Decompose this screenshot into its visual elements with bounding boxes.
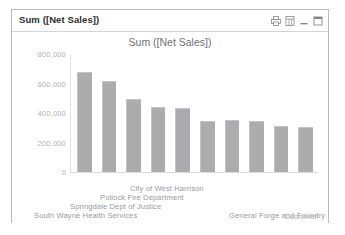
x-axis-category-label: Pollock Fire Department — [100, 193, 184, 202]
x-axis-tick-mark — [183, 172, 184, 174]
print-icon[interactable] — [271, 16, 281, 26]
bar[interactable] — [77, 72, 92, 172]
x-axis-tick-mark — [84, 172, 85, 174]
bar[interactable] — [200, 121, 215, 172]
x-axis-category-label: South Wayne Health Services — [34, 211, 137, 220]
minimize-icon[interactable] — [299, 16, 309, 26]
maximize-icon[interactable] — [313, 16, 323, 26]
x-axis-category-label: Springdale Dept of Justice — [70, 202, 161, 211]
bar[interactable] — [249, 121, 264, 172]
chart-title: Sum ([Net Sales]) — [12, 36, 328, 48]
bar[interactable] — [126, 99, 141, 172]
x-axis-tick-mark — [207, 172, 208, 174]
x-axis-tick-mark — [134, 172, 135, 174]
bar[interactable] — [225, 120, 240, 172]
x-axis-category-label: City of West Harrison — [130, 184, 204, 193]
plot-area: 0200,000400,000600,000800,000 — [12, 54, 328, 184]
bar[interactable] — [175, 108, 190, 172]
window-title: Sum ([Net Sales]) — [19, 14, 99, 25]
bar[interactable] — [274, 126, 289, 172]
y-axis-tick-label: 600,000 — [37, 79, 66, 88]
x-axis-tick-mark — [158, 172, 159, 174]
bar[interactable] — [102, 81, 117, 172]
window-caption-buttons — [271, 14, 323, 27]
x-axis-title: Customer — [284, 212, 317, 221]
x-axis-tick-mark — [109, 172, 110, 174]
x-axis-tick-mark — [257, 172, 258, 174]
x-axis-tick-mark — [281, 172, 282, 174]
x-axis-tick-mark — [306, 172, 307, 174]
bar-series — [72, 54, 318, 172]
y-axis-tick-label: 200,000 — [37, 138, 66, 147]
bar[interactable] — [151, 107, 166, 172]
chart-window: Sum ([Net Sales]) — [11, 9, 329, 223]
chart-canvas[interactable]: Sum ([Net Sales]) 0200,000400,000600,000… — [12, 32, 328, 223]
y-axis: 0200,000400,000600,000800,000 — [12, 54, 70, 172]
export-to-excel-icon[interactable] — [285, 16, 295, 26]
x-axis-labels: City of West HarrisonPollock Fire Depart… — [12, 184, 328, 223]
y-axis-line — [70, 54, 71, 172]
x-axis-tick-mark — [232, 172, 233, 174]
screenshot-root: Sum ([Net Sales]) — [0, 0, 345, 235]
y-axis-tick-label: 0 — [62, 168, 66, 177]
y-axis-tick-label: 400,000 — [37, 109, 66, 118]
window-caption-bar: Sum ([Net Sales]) — [12, 10, 328, 32]
bar[interactable] — [298, 127, 313, 172]
y-axis-tick-label: 800,000 — [37, 50, 66, 59]
